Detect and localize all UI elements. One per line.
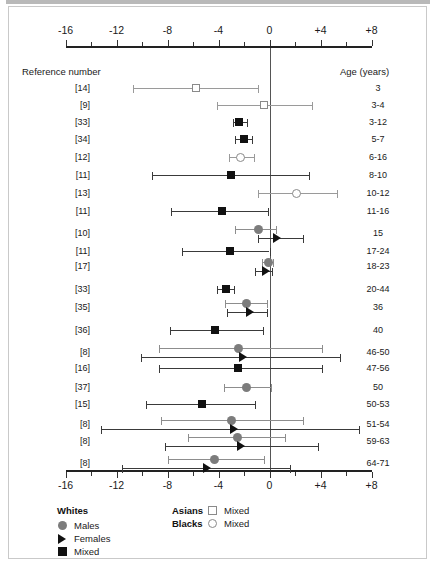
axis-tick-label: +8: [366, 479, 378, 491]
row-age-label: 11-16: [367, 206, 389, 216]
confidence-interval-cap-high: [267, 309, 268, 317]
row-age-label: 6-16: [369, 152, 387, 162]
axis-tick: [117, 472, 118, 478]
marker-black-square: [226, 247, 234, 255]
axis-tick-label: -16: [58, 479, 73, 491]
forest-plot: -16-12-8-40+4+8-16-12-8-40+4+8Reference …: [0, 0, 435, 575]
confidence-interval-cap-low: [171, 208, 172, 216]
confidence-interval-cap-low: [255, 268, 256, 276]
confidence-interval-cap-low: [235, 136, 236, 144]
column-header-reference: Reference number: [22, 66, 101, 77]
row-reference-number: [17]: [20, 261, 90, 271]
marker-triangle: [239, 352, 247, 362]
axis-line-top: [66, 46, 372, 48]
row-age-label: 36: [373, 302, 383, 312]
confidence-interval-cap-high: [272, 268, 273, 276]
axis-tick-label: -8: [163, 479, 172, 491]
axis-tick-label: +4: [315, 479, 327, 491]
row-reference-number: [34]: [20, 134, 90, 144]
axis-tick: [295, 42, 296, 46]
axis-tick: [91, 42, 92, 46]
axis-tick-label: -12: [109, 479, 124, 491]
confidence-interval-cap-high: [309, 172, 310, 180]
row-reference-number: [37]: [20, 382, 90, 392]
marker-triangle: [273, 233, 281, 243]
row-reference-number: [13]: [20, 188, 90, 198]
confidence-interval-cap-low: [101, 426, 102, 434]
row-reference-number: [12]: [20, 152, 90, 162]
row-reference-number: [11]: [20, 170, 90, 180]
confidence-interval-cap-low: [152, 172, 153, 180]
row-reference-number: [11]: [20, 246, 90, 256]
row-age-label: 64-71: [366, 458, 389, 468]
row-age-label: 47-56: [366, 363, 389, 373]
legend-group-title-whites: Whites: [57, 505, 88, 516]
confidence-interval-cap-high: [247, 119, 248, 127]
row-age-label: 40: [373, 325, 383, 335]
marker-black-square: [240, 135, 248, 143]
row-age-label: 15: [373, 228, 383, 238]
confidence-interval-cap-high: [303, 417, 304, 425]
axis-tick: [321, 472, 322, 478]
axis-tick: [193, 472, 194, 476]
legend-marker-black-square: [58, 547, 67, 556]
confidence-interval-cap-high: [337, 190, 338, 198]
confidence-interval-cap-low: [182, 248, 183, 256]
confidence-interval-cap-high: [271, 384, 272, 392]
axis-tick: [168, 40, 169, 46]
legend-item-label: Males: [74, 520, 99, 531]
axis-tick: [219, 472, 220, 478]
row-reference-number: [8]: [20, 347, 90, 357]
row-age-label: 51-54: [366, 419, 389, 429]
axis-tick: [91, 472, 92, 476]
legend-item-label: Females: [74, 533, 110, 544]
confidence-interval-cap-high: [290, 465, 291, 473]
marker-black-square: [198, 400, 206, 408]
marker-black-square: [222, 285, 230, 293]
marker-triangle: [262, 266, 270, 276]
figure-frame: -16-12-8-40+4+8-16-12-8-40+4+8Reference …: [0, 0, 435, 575]
confidence-interval-cap-low: [146, 401, 147, 409]
axis-tick-label: -12: [109, 24, 124, 36]
legend-marker-gray-circle: [58, 521, 67, 530]
row-reference-number: [9]: [20, 100, 90, 110]
axis-tick: [117, 40, 118, 46]
row-age-label: 46-50: [366, 347, 389, 357]
column-header-age: Age (years): [340, 66, 389, 77]
row-age-label: 8-10: [369, 170, 387, 180]
axis-tick: [66, 472, 67, 478]
confidence-interval-cap-low: [188, 434, 189, 442]
confidence-interval-cap-low: [165, 443, 166, 451]
axis-tick: [346, 472, 347, 476]
axis-tick: [270, 40, 271, 46]
confidence-interval-cap-high: [255, 401, 256, 409]
row-reference-number: [33]: [20, 284, 90, 294]
marker-black-square: [218, 207, 226, 215]
axis-tick: [66, 40, 67, 46]
confidence-interval-cap-low: [233, 119, 234, 127]
confidence-interval-cap-high: [312, 102, 313, 110]
axis-tick-label: 0: [267, 24, 273, 36]
row-age-label: 10-12: [366, 188, 389, 198]
confidence-interval-cap-high: [285, 434, 286, 442]
axis-tick-label: 0: [267, 479, 273, 491]
confidence-interval-cap-low: [217, 286, 218, 294]
marker-gray-circle: [242, 383, 251, 392]
confidence-interval-cap-low: [225, 300, 226, 308]
row-reference-number: [15]: [20, 399, 90, 409]
row-reference-number: [10]: [20, 228, 90, 238]
axis-tick: [193, 42, 194, 46]
row-reference-number: [8]: [20, 458, 90, 468]
legend-marker-open-circle: [208, 519, 217, 528]
confidence-interval-cap-high: [322, 345, 323, 353]
axis-tick: [270, 472, 271, 478]
axis-tick: [142, 472, 143, 476]
row-age-label: 50: [373, 382, 383, 392]
legend-item-label: Mixed: [224, 518, 249, 529]
confidence-interval-cap-low: [161, 417, 162, 425]
confidence-interval-cap-low: [258, 235, 259, 243]
axis-tick: [219, 40, 220, 46]
marker-triangle: [203, 463, 211, 473]
row-reference-number: [33]: [20, 117, 90, 127]
row-reference-number: [11]: [20, 206, 90, 216]
